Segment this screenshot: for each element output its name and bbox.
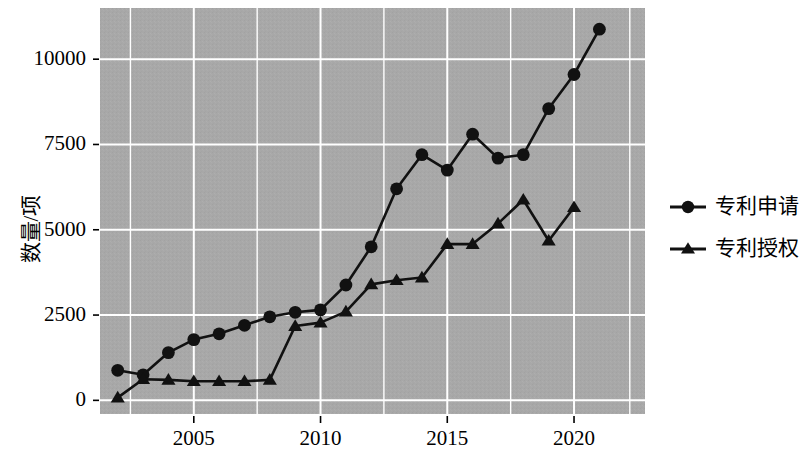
legend-entry-patent-applications: 专利申请 (668, 196, 799, 217)
data-point-marker (542, 102, 555, 115)
data-point-marker (238, 319, 251, 332)
plot-background (100, 8, 645, 414)
legend-marker-triangle-icon (668, 239, 708, 259)
data-point-marker (441, 164, 454, 177)
data-point-marker (187, 333, 200, 346)
y-tick-label: 0 (0, 389, 86, 410)
y-tick-label: 2500 (0, 304, 86, 325)
data-point-marker (289, 306, 302, 319)
legend-label-patent-grants: 专利授权 (715, 238, 799, 259)
data-point-marker (517, 148, 530, 161)
data-point-marker (162, 346, 175, 359)
data-point-marker (416, 148, 429, 161)
patent-trend-chart-figure: 数量/项 025005000750010000 2005201020152020… (0, 0, 799, 458)
y-tick-label: 10000 (0, 48, 86, 69)
data-point-marker (340, 279, 353, 292)
data-point-marker (568, 68, 581, 81)
x-tick-label: 2005 (144, 428, 244, 449)
data-point-marker (365, 240, 378, 253)
x-tick-label: 2010 (271, 428, 371, 449)
y-tick-label: 7500 (0, 133, 86, 154)
y-tick-label: 5000 (0, 219, 86, 240)
data-point-marker (466, 128, 479, 141)
data-point-marker (213, 327, 226, 340)
data-point-marker (593, 23, 606, 36)
x-tick-label: 2015 (397, 428, 497, 449)
legend-label-patent-applications: 专利申请 (715, 196, 799, 217)
chart-canvas (0, 0, 799, 458)
legend-marker-circle-icon (668, 197, 708, 217)
data-point-marker (263, 310, 276, 323)
data-point-marker (390, 182, 403, 195)
legend-entry-patent-grants: 专利授权 (668, 238, 799, 259)
data-point-marker (314, 304, 327, 317)
x-tick-label: 2020 (524, 428, 624, 449)
data-point-marker (492, 152, 505, 165)
data-point-marker (111, 364, 124, 377)
